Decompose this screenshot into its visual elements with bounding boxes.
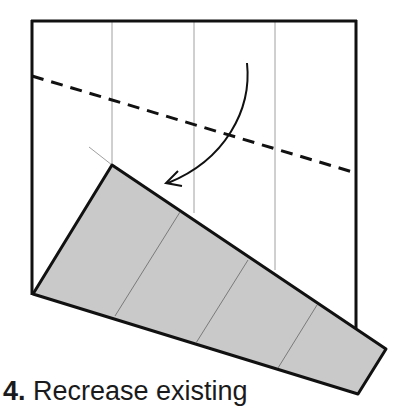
origami-diagram [0, 0, 396, 411]
reference-line [89, 147, 112, 165]
step-caption: 4. Recrease existing [3, 376, 248, 406]
step-number: 4. [3, 376, 26, 406]
fold-arrow-icon [166, 63, 248, 186]
folded-flap [33, 165, 386, 394]
step-instruction: Recrease existing [26, 376, 248, 406]
